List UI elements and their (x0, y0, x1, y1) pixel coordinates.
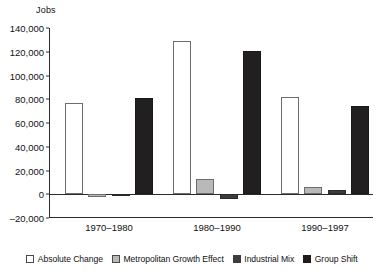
legend-swatch-absolute-change (26, 255, 34, 263)
y-axis-tick-label: 100,000 (10, 70, 44, 81)
legend-label: Absolute Change (38, 254, 103, 264)
y-axis-tick-label: 40,000 (15, 141, 44, 152)
y-axis-title: Jobs (36, 5, 56, 15)
bar-group (265, 28, 373, 218)
bar-industrial-mix (328, 190, 346, 195)
x-axis-category-label: 1990–1997 (301, 222, 349, 233)
legend-item[interactable]: Absolute Change (26, 254, 103, 264)
bar-group-shift (243, 51, 261, 195)
legend-item[interactable]: Industrial Mix (233, 254, 294, 264)
bar-group (49, 28, 157, 218)
legend-swatch-industrial-mix (233, 255, 241, 263)
x-axis-category-label: 1970–1980 (85, 222, 133, 233)
y-axis-tick-label: 80,000 (15, 94, 44, 105)
legend-label: Industrial Mix (244, 254, 294, 264)
bar-group (157, 28, 265, 218)
legend-label: Group Shift (315, 254, 358, 264)
bar-group-shift (135, 98, 153, 194)
y-axis-tick-label: 20,000 (15, 165, 44, 176)
bar-absolute-change (281, 97, 299, 194)
legend-swatch-group-shift (303, 255, 311, 263)
bar-absolute-change (65, 103, 83, 194)
legend-item[interactable]: Group Shift (303, 254, 357, 264)
bar-group-shift (351, 106, 369, 194)
legend-label: Metropolitan Growth Effect (124, 254, 224, 264)
bar-metropolitan-growth-effect (196, 179, 214, 194)
bar-industrial-mix (112, 194, 130, 196)
bar-metropolitan-growth-effect (304, 187, 322, 195)
chart-legend: Absolute ChangeMetropolitan Growth Effec… (0, 254, 384, 264)
bar-chart-figure: Jobs 140,000120,000100,00080,00060,00040… (0, 0, 384, 277)
y-axis-tick-label: –20,000 (10, 213, 44, 224)
bar-industrial-mix (220, 194, 238, 199)
legend-item[interactable]: Metropolitan Growth Effect (112, 254, 224, 264)
y-axis-tick-label: 120,000 (10, 46, 44, 57)
bar-absolute-change (173, 41, 191, 194)
plot-area: 140,000120,000100,00080,00060,00040,0002… (49, 28, 373, 218)
y-axis-tick-label: 140,000 (10, 23, 44, 34)
y-axis-tick-label: 60,000 (15, 118, 44, 129)
legend-swatch-metropolitan-growth-effect (112, 255, 120, 263)
bar-metropolitan-growth-effect (88, 194, 106, 196)
y-axis-tick-label: 0 (39, 189, 44, 200)
x-axis-category-label: 1980–1990 (193, 222, 241, 233)
